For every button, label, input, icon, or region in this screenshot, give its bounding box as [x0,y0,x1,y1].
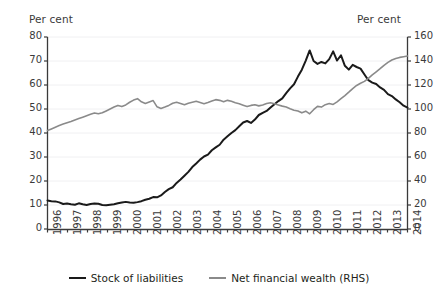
left-tick-60: 60 [18,78,42,89]
x-tick-2003: 2003 [192,210,203,235]
x-tick-1997: 1997 [72,210,83,235]
legend-label: Net financial wealth (RHS) [231,272,369,284]
x-tick-2010: 2010 [332,210,343,235]
chart-legend: Stock of liabilitiesNet financial wealth… [0,272,438,284]
x-tick-2001: 2001 [152,210,163,235]
gridlines [48,37,408,205]
chart-figure: Per cent Per cent 01020304050607080 0204… [0,0,438,296]
right-tick-80: 80 [414,126,438,137]
left-tick-50: 50 [18,102,42,113]
left-tick-20: 20 [18,174,42,185]
x-tick-1996: 1996 [52,210,63,235]
left-tick-80: 80 [18,30,42,41]
left-tick-0: 0 [18,222,42,233]
x-tick-2002: 2002 [172,210,183,235]
legend-label: Stock of liabilities [91,272,184,284]
x-tick-1998: 1998 [92,210,103,235]
legend-swatch-icon [69,277,86,279]
x-tick-2008: 2008 [292,210,303,235]
plot-area [0,0,438,296]
legend-item-2[interactable]: Net financial wealth (RHS) [209,272,369,284]
right-tick-100: 100 [414,102,438,113]
right-tick-20: 20 [414,198,438,209]
legend-swatch-icon [209,277,226,279]
right-tick-140: 140 [414,54,438,65]
left-tick-70: 70 [18,54,42,65]
series-line-net-financial-wealth-rhs [48,56,408,131]
left-tick-10: 10 [18,198,42,209]
x-tick-2006: 2006 [252,210,263,235]
series-line-stock-of-liabilities [48,50,408,205]
right-tick-160: 160 [414,30,438,41]
x-tick-2013: 2013 [392,210,403,235]
x-tick-2014: 2014 [412,210,423,235]
x-tick-1999: 1999 [112,210,123,235]
legend-item-1[interactable]: Stock of liabilities [69,272,184,284]
left-tick-30: 30 [18,150,42,161]
right-tick-60: 60 [414,150,438,161]
x-tick-2004: 2004 [212,210,223,235]
x-tick-2011: 2011 [352,210,363,235]
x-tick-2012: 2012 [372,210,383,235]
x-tick-2005: 2005 [232,210,243,235]
right-tick-120: 120 [414,78,438,89]
left-tick-40: 40 [18,126,42,137]
x-tick-2000: 2000 [132,210,143,235]
data-series [48,50,408,205]
x-tick-2007: 2007 [272,210,283,235]
right-tick-40: 40 [414,174,438,185]
x-tick-2009: 2009 [312,210,323,235]
